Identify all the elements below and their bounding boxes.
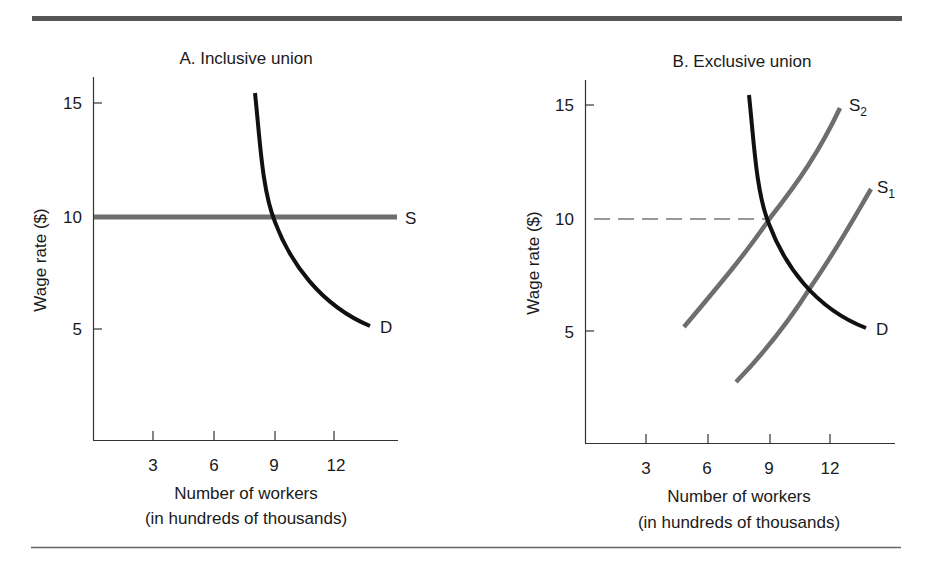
panel-b-x-label: Number of workers bbox=[667, 487, 811, 506]
label-s2: S2 bbox=[849, 96, 867, 119]
y-tick-label: 15 bbox=[63, 94, 82, 113]
figure: A. Inclusive union Wage rate ($) 15 10 5… bbox=[0, 0, 927, 564]
label-s1: S1 bbox=[877, 178, 895, 201]
panel-b-title: B. Exclusive union bbox=[673, 52, 812, 71]
y-tick-label: 10 bbox=[63, 208, 82, 227]
panel-b-y-label: Wage rate ($) bbox=[524, 211, 543, 314]
supply-curve-s2 bbox=[684, 108, 840, 327]
panel-a-title: A. Inclusive union bbox=[179, 49, 312, 68]
panel-a-y-label: Wage rate ($) bbox=[31, 208, 50, 311]
x-tick-label: 6 bbox=[209, 456, 218, 475]
panel-b-x-label-sub: (in hundreds of thousands) bbox=[638, 513, 840, 532]
x-tick-label: 12 bbox=[327, 456, 346, 475]
y-tick-label: 5 bbox=[565, 323, 574, 342]
x-tick-label: 6 bbox=[702, 459, 711, 478]
panel-a: A. Inclusive union Wage rate ($) 15 10 5… bbox=[31, 49, 416, 528]
label-d: D bbox=[876, 320, 888, 339]
y-tick-label: 5 bbox=[73, 320, 82, 339]
top-rule bbox=[32, 16, 902, 21]
x-tick-label: 3 bbox=[641, 459, 650, 478]
x-tick-label: 12 bbox=[821, 459, 840, 478]
x-tick-label: 3 bbox=[148, 456, 157, 475]
x-tick-label: 9 bbox=[269, 456, 278, 475]
y-tick-label: 15 bbox=[555, 96, 574, 115]
label-d: D bbox=[380, 318, 392, 337]
demand-curve-d bbox=[255, 93, 370, 326]
panel-a-x-label: Number of workers bbox=[174, 484, 318, 503]
y-tick-label: 10 bbox=[555, 210, 574, 229]
label-s: S bbox=[405, 209, 416, 228]
panel-b: B. Exclusive union Wage rate ($) 15 10 5… bbox=[524, 52, 895, 532]
panel-a-x-label-sub: (in hundreds of thousands) bbox=[145, 509, 347, 528]
x-tick-label: 9 bbox=[764, 459, 773, 478]
